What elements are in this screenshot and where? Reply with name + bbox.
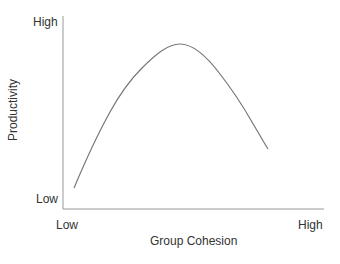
y-axis-high-label: High	[33, 15, 58, 29]
productivity-curve	[74, 44, 268, 188]
chart-canvas	[0, 0, 340, 264]
x-axis-title: Group Cohesion	[150, 234, 237, 248]
y-axis-title: Productivity	[6, 79, 20, 141]
y-axis-low-label: Low	[36, 192, 58, 206]
x-axis-high-label: High	[298, 218, 323, 232]
x-axis-low-label: Low	[56, 218, 78, 232]
